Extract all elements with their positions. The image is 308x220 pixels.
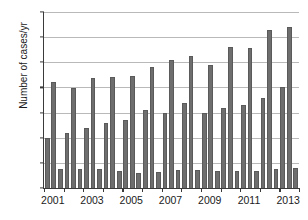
bar bbox=[97, 169, 102, 188]
bar bbox=[176, 170, 181, 188]
bar bbox=[123, 120, 128, 188]
x-tick-mark bbox=[279, 188, 280, 192]
bar bbox=[267, 30, 272, 188]
bar bbox=[45, 138, 50, 188]
x-tick-label: 2009 bbox=[198, 194, 221, 206]
x-tick-label: 2007 bbox=[159, 194, 182, 206]
bar-series-group bbox=[44, 12, 299, 188]
bar bbox=[235, 171, 240, 188]
bar bbox=[182, 103, 187, 188]
bar bbox=[221, 108, 226, 188]
bar bbox=[254, 171, 259, 188]
bar bbox=[195, 170, 200, 188]
x-tick-mark bbox=[83, 188, 84, 192]
x-tick-mark bbox=[181, 188, 182, 192]
x-tick-mark bbox=[103, 188, 104, 192]
bar bbox=[202, 113, 207, 188]
x-tick-mark bbox=[260, 188, 261, 192]
bar bbox=[293, 168, 298, 188]
bar bbox=[130, 76, 135, 188]
bar bbox=[287, 27, 292, 188]
bar bbox=[104, 123, 109, 188]
x-tick-label: 2011 bbox=[238, 194, 261, 206]
x-tick-label: 2003 bbox=[80, 194, 103, 206]
x-tick-label: 2013 bbox=[277, 194, 300, 206]
x-tick-mark bbox=[142, 188, 143, 192]
x-tick-mark bbox=[122, 188, 123, 192]
bar bbox=[84, 128, 89, 188]
bar bbox=[163, 113, 168, 188]
bar bbox=[110, 77, 115, 188]
bar bbox=[143, 110, 148, 188]
bar bbox=[274, 169, 279, 188]
bar bbox=[248, 48, 253, 188]
bar bbox=[117, 171, 122, 188]
bar bbox=[150, 67, 155, 188]
bar bbox=[169, 60, 174, 188]
y-axis-title: Number of cases/yr bbox=[18, 0, 29, 141]
bar bbox=[215, 171, 220, 188]
bar bbox=[71, 88, 76, 188]
bar bbox=[136, 173, 141, 188]
x-tick-label: 2001 bbox=[41, 194, 64, 206]
x-tick-mark bbox=[201, 188, 202, 192]
bar bbox=[228, 47, 233, 188]
bar bbox=[65, 133, 70, 188]
x-tick-mark bbox=[44, 188, 45, 192]
bar-chart: Number of cases/yr 050010001500200025003… bbox=[0, 0, 308, 220]
x-tick-mark bbox=[162, 188, 163, 192]
plot-area: 0500100015002000250030003500 bbox=[43, 12, 299, 189]
x-tick-mark bbox=[64, 188, 65, 192]
x-tick-mark bbox=[299, 188, 300, 192]
bar bbox=[78, 169, 83, 188]
bar bbox=[208, 65, 213, 188]
x-tick-label: 2005 bbox=[120, 194, 143, 206]
x-tick-mark bbox=[221, 188, 222, 192]
bar bbox=[51, 82, 56, 188]
bar bbox=[261, 98, 266, 189]
bar bbox=[189, 56, 194, 188]
bar bbox=[91, 78, 96, 188]
bar bbox=[241, 105, 246, 188]
x-tick-mark bbox=[240, 188, 241, 192]
bar bbox=[156, 172, 161, 188]
bar bbox=[58, 169, 63, 188]
bar bbox=[280, 87, 285, 188]
